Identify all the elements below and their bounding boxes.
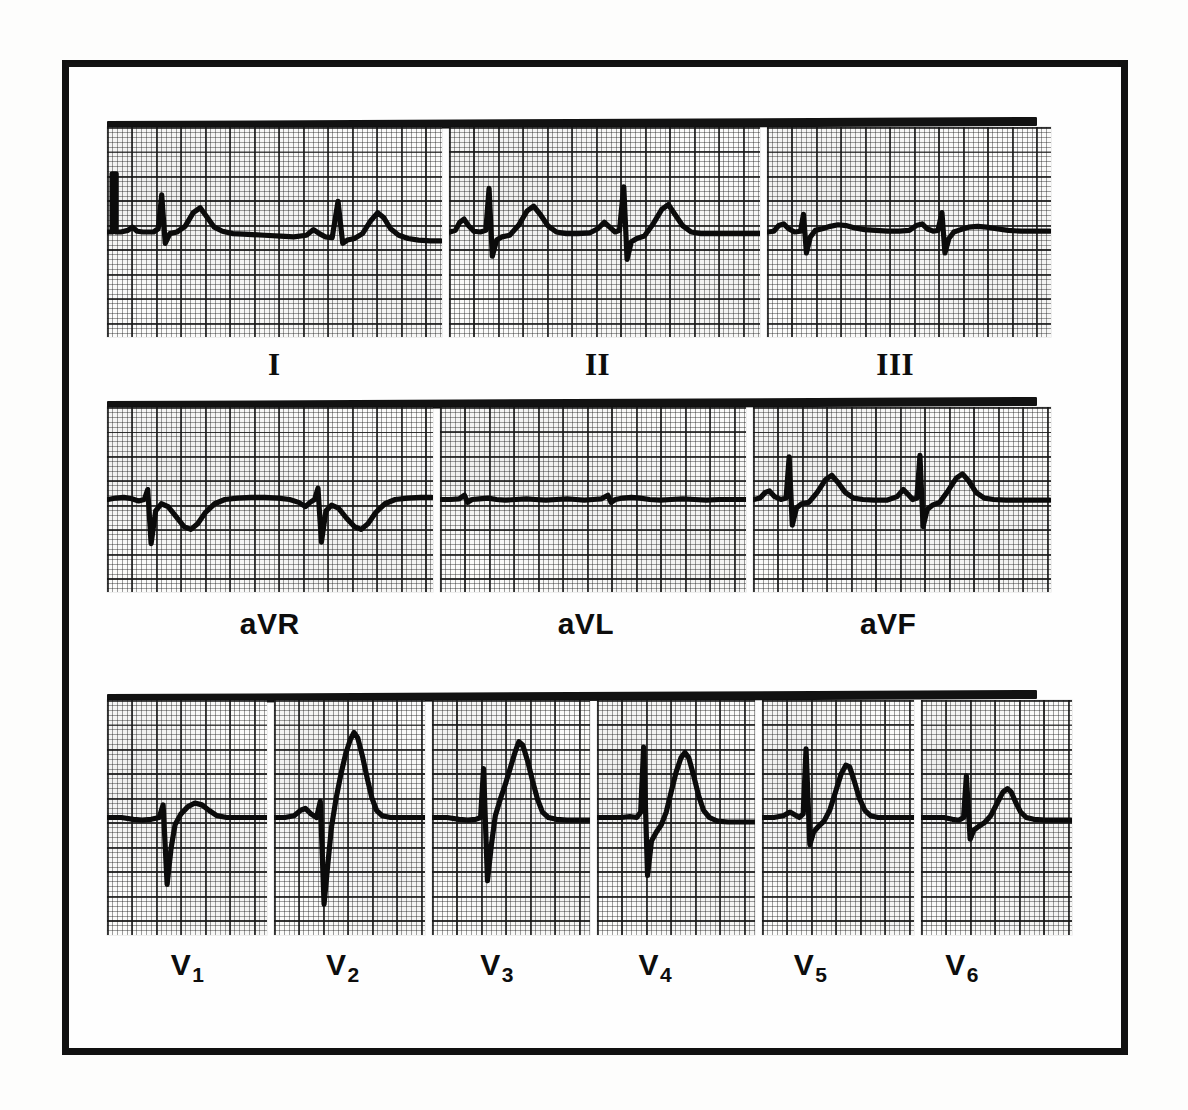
ecg-trace-avf: [753, 407, 1051, 592]
ecg-row-limb-leads: IIIIII: [69, 119, 1121, 394]
lead-label-text: aVL: [558, 607, 615, 640]
ecg-row-precordial-leads: V1V2V3V4V5V6: [69, 692, 1121, 992]
lead-label-subscript: 5: [815, 963, 827, 986]
lead-label-v5: V5: [734, 950, 887, 980]
ecg-trace-ii: [449, 127, 761, 337]
lead-label-subscript: 2: [347, 963, 359, 986]
ecg-trace-v1: [107, 700, 267, 935]
lead-label-base: V: [945, 948, 966, 981]
ecg-strip-v5: [762, 700, 915, 935]
ecg-trace-v2: [274, 700, 425, 935]
lead-label-base: V: [480, 948, 501, 981]
lead-label-avr: aVR: [107, 609, 433, 639]
ecg-trace-v3: [432, 700, 590, 935]
lead-label-base: V: [326, 948, 347, 981]
ecg-strip-iii: [767, 127, 1051, 337]
ecg-trace-iii: [767, 127, 1051, 337]
lead-label-base: V: [171, 948, 192, 981]
ecg-trace-i: [107, 127, 442, 337]
lead-label-v2: V2: [267, 950, 418, 980]
label-band-limb: IIIIII: [107, 349, 1037, 380]
lead-label-v3: V3: [418, 950, 576, 980]
ecg-strip-v2: [274, 700, 425, 935]
label-band-augmented: aVRaVLaVF: [107, 609, 1037, 639]
ecg-page: IIIIII aVRaVLaVF V1V2V3V4V5V6: [0, 0, 1188, 1110]
lead-label-avf: aVF: [739, 609, 1037, 639]
ecg-strip-avl: [440, 407, 747, 592]
ecg-trace-avr: [107, 407, 433, 592]
strip-band-augmented: [107, 407, 1037, 592]
lead-label-iii: III: [753, 349, 1037, 380]
lead-label-base: V: [638, 948, 659, 981]
lead-label-avl: aVL: [433, 609, 740, 639]
lead-label-v4: V4: [576, 950, 734, 980]
lead-label-subscript: 1: [192, 963, 204, 986]
ecg-strip-v1: [107, 700, 267, 935]
lead-label-v6: V6: [886, 950, 1037, 980]
lead-label-text: aVR: [240, 607, 300, 640]
ecg-strip-avf: [753, 407, 1051, 592]
lead-label-v1: V1: [107, 950, 267, 980]
ecg-trace-v5: [762, 700, 915, 935]
ecg-row-augmented-leads: aVRaVLaVF: [69, 399, 1121, 674]
lead-label-text: I: [268, 347, 281, 382]
lead-label-text: III: [876, 347, 914, 382]
lead-label-subscript: 3: [502, 963, 514, 986]
ecg-strip-v4: [597, 700, 755, 935]
ecg-strip-v6: [921, 700, 1072, 935]
ecg-trace-avl: [440, 407, 747, 592]
lead-label-text: aVF: [860, 607, 917, 640]
lead-label-ii: II: [442, 349, 754, 380]
label-band-precordial: V1V2V3V4V5V6: [107, 950, 1037, 980]
lead-label-subscript: 6: [967, 963, 979, 986]
strip-band-precordial: [107, 700, 1037, 935]
lead-label-text: II: [585, 347, 610, 382]
lead-label-subscript: 4: [660, 963, 672, 986]
lead-label-i: I: [107, 349, 442, 380]
ecg-trace-v4: [597, 700, 755, 935]
ecg-strip-ii: [449, 127, 761, 337]
ecg-border-frame: IIIIII aVRaVLaVF V1V2V3V4V5V6: [62, 60, 1128, 1055]
ecg-trace-v6: [921, 700, 1072, 935]
strip-band-limb: [107, 127, 1037, 337]
ecg-strip-i: [107, 127, 442, 337]
lead-label-base: V: [794, 948, 815, 981]
ecg-strip-avr: [107, 407, 433, 592]
ecg-strip-v3: [432, 700, 590, 935]
